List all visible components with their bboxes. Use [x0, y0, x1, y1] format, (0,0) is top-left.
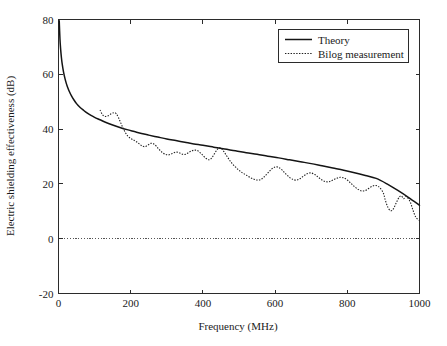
x-tick-label: 400 — [195, 297, 212, 309]
x-tick-label: 600 — [267, 297, 284, 309]
y-tick-label: 0 — [48, 233, 54, 245]
y-tick-label: 40 — [43, 123, 55, 135]
chart-legend: Theory Bilog measurement — [279, 30, 409, 63]
legend-label-bilog-measurement: Bilog measurement — [318, 48, 404, 60]
y-axis-title: Electric shielding effectiveness (dB) — [4, 76, 17, 236]
y-tick-label: 60 — [43, 68, 55, 80]
shielding-effectiveness-chart: 02004006008001000 -20020406080 Frequency… — [0, 0, 447, 346]
x-tick-label: 1000 — [409, 297, 432, 309]
x-tick-label: 0 — [56, 297, 62, 309]
legend-label-theory: Theory — [318, 34, 350, 46]
x-tick-label: 800 — [339, 297, 356, 309]
y-tick-label: 20 — [43, 178, 55, 190]
y-tick-label: -20 — [39, 288, 54, 300]
x-axis-title: Frequency (MHz) — [198, 320, 277, 333]
x-tick-label: 200 — [122, 297, 139, 309]
figure-container: 02004006008001000 -20020406080 Frequency… — [0, 0, 447, 346]
y-tick-label: 80 — [43, 14, 55, 26]
